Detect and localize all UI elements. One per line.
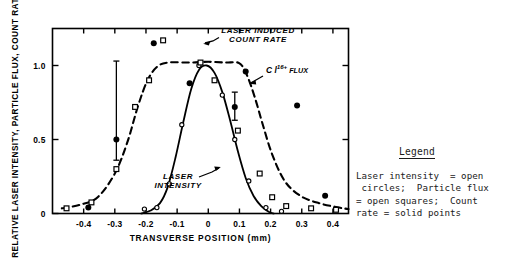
laser-intensity-annotation-line1: LASER: [163, 172, 193, 181]
data-point-open-square: [309, 206, 314, 211]
x-tick-label: 0: [206, 219, 211, 229]
data-point-open-square: [198, 60, 203, 65]
figure-panel: -0.4-0.3-0.2-0.100.10.20.30.400.51.0TRAN…: [0, 0, 514, 259]
legend-body: Laser intensity = open circles; Particle…: [356, 170, 512, 220]
legend-line: Laser intensity = open: [356, 170, 512, 183]
data-point-solid: [85, 205, 91, 211]
series-curve: [62, 62, 349, 209]
data-point-open-square: [64, 206, 69, 211]
legend-line: circles; Particle flux: [356, 182, 512, 195]
series-curve: [141, 65, 273, 213]
legend-title: Legend: [362, 146, 472, 159]
x-tick-label: -0.3: [107, 219, 122, 229]
data-point-open-circle: [155, 205, 159, 209]
y-tick-label: 1.0: [33, 61, 45, 71]
data-point-open-circle: [279, 209, 283, 213]
data-point-open-circle: [264, 205, 268, 209]
data-point-open-square: [334, 207, 339, 212]
x-tick-label: 0.4: [327, 219, 339, 229]
count-rate-arrowhead: [203, 41, 210, 45]
data-point-solid: [113, 137, 119, 143]
data-point-solid: [187, 80, 193, 86]
series-laser-intensity: [141, 63, 283, 213]
data-point-open-square: [89, 200, 94, 205]
y-tick-label: 0.5: [33, 135, 45, 145]
count-rate-annotation-line1: LASER INDUCED: [221, 26, 295, 35]
legend: Legend Laser intensity = open circles; P…: [356, 146, 512, 220]
x-tick-label: -0.2: [138, 219, 153, 229]
data-point-open-circle: [233, 137, 237, 141]
data-point-open-square: [235, 128, 240, 133]
data-point-open-circle: [220, 93, 224, 97]
data-point-open-circle: [142, 207, 146, 211]
x-tick-label: 0.3: [296, 219, 308, 229]
x-tick-label: 0.2: [264, 219, 276, 229]
flux-annotation-text: C l16+FLUX: [266, 63, 309, 75]
data-point-open-square: [161, 38, 166, 43]
data-point-solid: [322, 193, 328, 199]
x-tick-label: -0.4: [76, 219, 91, 229]
chart-canvas: -0.4-0.3-0.2-0.100.10.20.30.400.51.0TRAN…: [0, 0, 514, 259]
data-point-open-square: [212, 78, 217, 83]
data-point-open-circle: [247, 179, 251, 183]
data-point-solid: [243, 68, 249, 74]
data-point-open-circle: [180, 123, 184, 127]
flux-arrow: [251, 76, 264, 83]
data-point-solid: [294, 102, 300, 108]
count-rate-annotation-line2: COUNT RATE: [229, 35, 287, 44]
plot-axes: -0.4-0.3-0.2-0.100.10.20.30.400.51.0TRAN…: [11, 0, 349, 258]
data-point-open-square: [270, 195, 275, 200]
data-point-open-square: [284, 204, 289, 209]
y-tick-label: 0: [41, 209, 46, 219]
legend-title-text: Legend: [399, 146, 435, 159]
legend-line: = open squares; Count: [356, 195, 512, 208]
laser-intensity-annotation-line2: INTENSITY: [154, 181, 201, 190]
count-rate-arrow: [205, 38, 219, 44]
plot-annotations: LASER INDUCEDCOUNT RATEC l16+FLUXLASERIN…: [154, 26, 309, 190]
data-point-solid: [151, 40, 157, 46]
y-axis-title: RELATIVE LASER INTENSITY, PARTICLE FLUX,…: [11, 0, 20, 258]
series-particle-flux: [62, 38, 349, 212]
data-point-open-square: [133, 105, 138, 110]
plot-series: [62, 38, 349, 214]
x-tick-label: -0.1: [170, 219, 185, 229]
data-point-solid: [232, 104, 238, 110]
data-point-open-square: [114, 167, 119, 172]
data-point-open-square: [257, 171, 262, 176]
flux-annotation: C l16+FLUX: [249, 63, 309, 84]
legend-line: rate = solid points: [356, 207, 512, 220]
x-axis-title: TRANSVERSE POSITION (mm): [130, 233, 272, 243]
data-point-open-square: [147, 78, 152, 83]
x-tick-label: 0.1: [233, 219, 245, 229]
